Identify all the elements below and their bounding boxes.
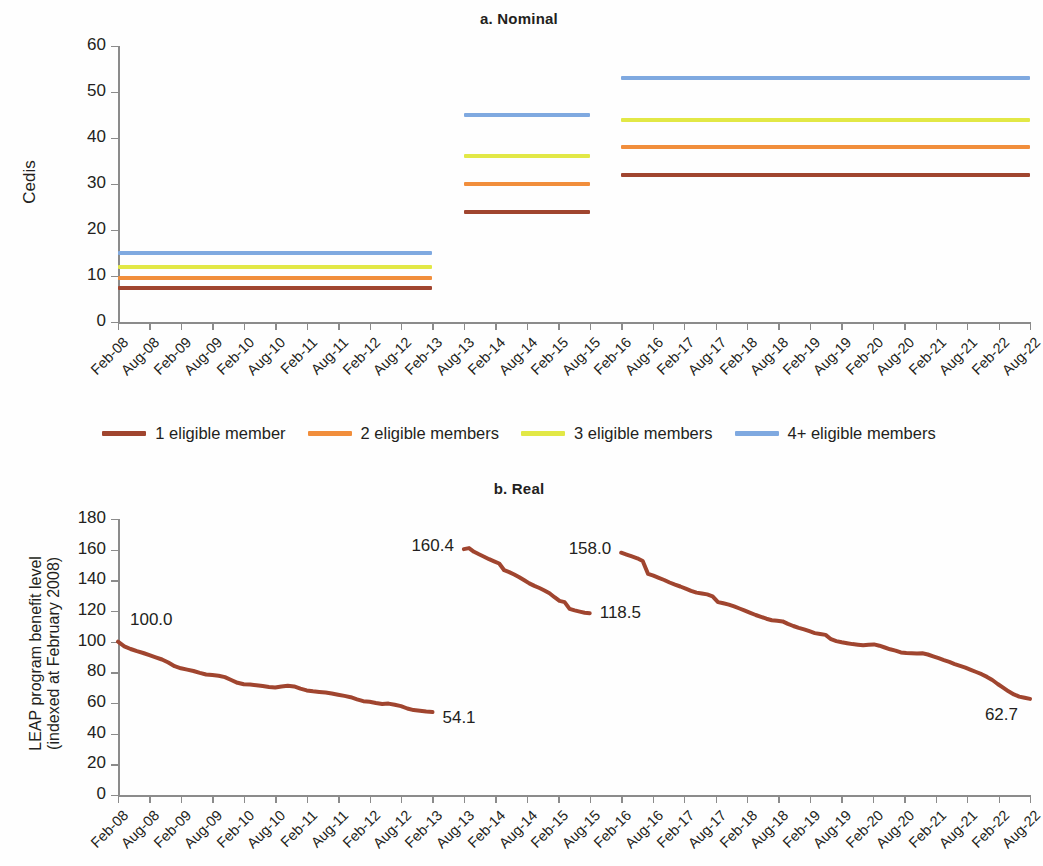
y-axis-line [118, 519, 120, 795]
legend-label: 3 eligible members [574, 424, 712, 443]
y-axis-tick [111, 703, 118, 704]
y-axis-tick-label: 0 [54, 311, 106, 331]
x-axis-tick [653, 322, 654, 330]
x-axis-tick [684, 795, 685, 803]
y-axis-tick [111, 642, 118, 643]
y-axis-tick-label: 100 [54, 631, 106, 651]
x-axis-tick [1030, 795, 1031, 803]
x-axis-tick [338, 322, 339, 330]
y-axis-line [118, 46, 120, 322]
x-axis-tick [370, 795, 371, 803]
y-axis-tick-label: 0 [54, 784, 106, 804]
x-axis-tick [684, 322, 685, 330]
legend-color-swatch [308, 431, 352, 436]
real-series-polyline [118, 642, 433, 712]
x-axis-tick [370, 322, 371, 330]
nominal-series-segment [464, 154, 590, 158]
legend-item[interactable]: 4+ eligible members [735, 424, 936, 443]
legend-color-swatch [102, 431, 146, 436]
x-axis-tick [904, 322, 905, 330]
y-axis-tick [111, 519, 118, 520]
legend-item[interactable]: 2 eligible members [308, 424, 499, 443]
x-axis-tick [747, 795, 748, 803]
x-axis-tick [841, 795, 842, 803]
nominal-series-segment [621, 173, 1030, 177]
y-axis-tick [111, 764, 118, 765]
y-axis-tick [111, 230, 118, 231]
x-axis-tick [244, 795, 245, 803]
x-axis-tick [873, 795, 874, 803]
x-axis-tick [841, 322, 842, 330]
x-axis-tick [936, 795, 937, 803]
panel-nominal: a. Nominal Cedis 0102030405060Feb-08Aug-… [0, 0, 1038, 460]
x-axis-tick [716, 795, 717, 803]
x-axis-tick [275, 322, 276, 330]
y-axis-tick-label: 140 [54, 569, 106, 589]
legend-label: 2 eligible members [361, 424, 499, 443]
panel-b-plot-area: 020406080100120140160180Feb-08Aug-08Feb-… [0, 470, 1038, 866]
x-axis-tick [464, 322, 465, 330]
y-axis-tick-label: 180 [54, 508, 106, 528]
x-axis-tick [936, 322, 937, 330]
x-axis-line [118, 795, 1030, 797]
y-axis-tick-label: 30 [54, 173, 106, 193]
nominal-series-segment [621, 118, 1030, 122]
y-axis-tick-label: 60 [54, 692, 106, 712]
legend-item[interactable]: 1 eligible member [102, 424, 285, 443]
y-axis-tick-label: 120 [54, 600, 106, 620]
y-axis-tick [111, 734, 118, 735]
x-axis-tick [212, 795, 213, 803]
x-axis-tick [307, 322, 308, 330]
x-axis-tick [275, 795, 276, 803]
nominal-series-segment [464, 113, 590, 117]
legend-label: 1 eligible member [155, 424, 285, 443]
legend: 1 eligible member2 eligible members3 eli… [0, 418, 1038, 448]
y-axis-tick [111, 550, 118, 551]
x-axis-tick [873, 322, 874, 330]
x-axis-tick [558, 795, 559, 803]
data-label-100: 100.0 [130, 610, 173, 630]
y-axis-tick-label: 20 [54, 753, 106, 773]
nominal-series-segment [118, 286, 432, 290]
data-label-62: 62.7 [950, 705, 1018, 725]
x-axis-tick [810, 795, 811, 803]
y-axis-tick [111, 795, 118, 796]
x-axis-tick [590, 795, 591, 803]
x-axis-tick [118, 795, 119, 803]
x-axis-tick [967, 795, 968, 803]
x-axis-tick [495, 795, 496, 803]
legend-item[interactable]: 3 eligible members [521, 424, 712, 443]
data-label-160: 160.4 [386, 536, 454, 556]
y-axis-tick [111, 276, 118, 277]
x-axis-tick [967, 322, 968, 330]
data-label-118: 118.5 [600, 603, 641, 623]
x-axis-tick [181, 795, 182, 803]
y-axis-tick [111, 138, 118, 139]
y-axis-tick [111, 611, 118, 612]
x-axis-tick [810, 322, 811, 330]
legend-label: 4+ eligible members [788, 424, 936, 443]
x-axis-tick [212, 322, 213, 330]
x-axis-tick [590, 322, 591, 330]
nominal-series-segment [464, 210, 590, 214]
nominal-series-segment [621, 76, 1030, 80]
x-axis-tick [999, 795, 1000, 803]
data-label-54: 54.1 [442, 708, 475, 728]
x-axis-tick [432, 795, 433, 803]
nominal-series-segment [464, 182, 590, 186]
real-series-polyline [621, 553, 1030, 699]
y-axis-tick-label: 50 [54, 81, 106, 101]
x-axis-tick [778, 795, 779, 803]
y-axis-tick-label: 10 [54, 265, 106, 285]
y-axis-tick-label: 60 [54, 35, 106, 55]
x-axis-tick [181, 322, 182, 330]
x-axis-line [118, 322, 1030, 324]
panel-real: b. Real LEAP program benefit level (inde… [0, 470, 1038, 866]
x-axis-tick [1030, 322, 1031, 330]
x-axis-tick [747, 322, 748, 330]
x-axis-tick [653, 795, 654, 803]
x-axis-tick [401, 322, 402, 330]
real-series-lines [0, 470, 1038, 866]
legend-color-swatch [735, 431, 779, 436]
x-axis-tick [244, 322, 245, 330]
